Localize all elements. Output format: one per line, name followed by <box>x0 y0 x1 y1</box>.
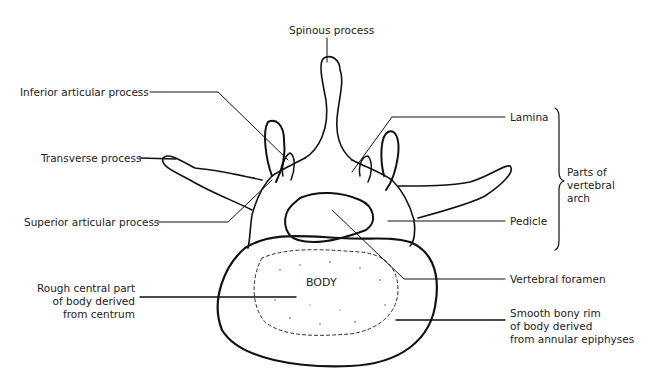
right-transverse-process <box>398 166 511 218</box>
leader-vertebral-foramen <box>332 210 505 279</box>
vertebral-foramen-outline <box>285 193 373 242</box>
right-superior-articular-process <box>381 131 398 190</box>
label-lamina: Lamina <box>510 111 549 124</box>
rough-central-part-outline <box>254 250 398 336</box>
label-inferior-articular-process: Inferior articular process <box>20 86 149 99</box>
leader-superior-articular-process <box>158 180 272 222</box>
label-smooth-bony-rim: Smooth bony rim of body derived from ann… <box>510 307 634 346</box>
left-superior-articular-process <box>265 121 284 182</box>
label-vertebral-foramen: Vertebral foramen <box>510 273 606 286</box>
vertebral-body-outline <box>218 236 437 366</box>
label-rough-central-part: Rough central part of body derived from … <box>20 282 135 321</box>
body-stipple <box>274 261 385 324</box>
vertebral-arch-brace <box>555 108 564 250</box>
label-pedicle: Pedicle <box>510 215 547 228</box>
left-transverse-process <box>163 156 262 210</box>
label-transverse-process: Transverse process <box>41 152 141 165</box>
spinous-process-outline <box>305 57 352 160</box>
label-parts-of-vertebral-arch: Parts of vertebral arch <box>567 166 615 205</box>
leader-transverse-process <box>140 158 176 159</box>
left-arch-outline <box>248 158 305 248</box>
label-superior-articular-process: Superior articular process <box>24 216 159 229</box>
leader-lamina <box>352 117 505 172</box>
vertebra-diagram: Spinous process Inferior articular proce… <box>0 0 651 373</box>
label-body: BODY <box>306 276 337 289</box>
label-spinous-process: Spinous process <box>289 24 374 37</box>
